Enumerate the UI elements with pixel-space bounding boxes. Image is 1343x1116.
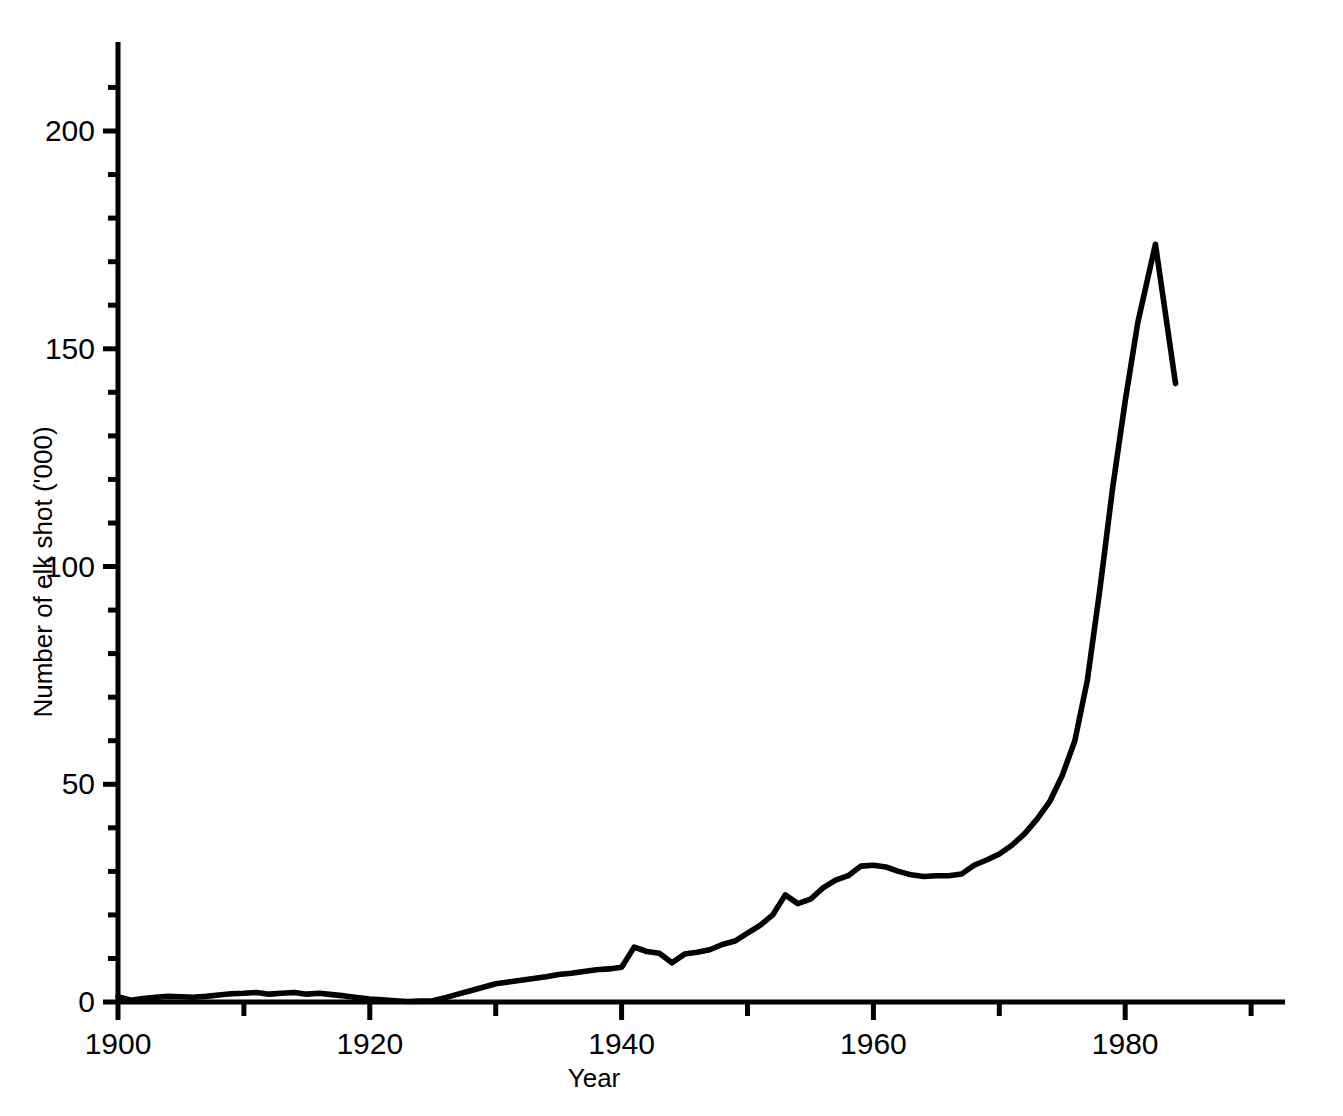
x-tick-label-1920: 1920 [336, 1027, 403, 1060]
y-minor-ticks [108, 87, 118, 958]
y-tick-label-0: 0 [78, 985, 95, 1018]
y-tick-label-200: 200 [45, 114, 95, 147]
x-tick-label-1900: 1900 [85, 1027, 152, 1060]
y-axis-title: Number of elk shot ('000) [28, 426, 58, 717]
data-series-line [118, 244, 1176, 1001]
line-chart-svg: 0 50 100 150 200 1900 1920 1940 1960 198… [0, 0, 1343, 1116]
x-major-ticks [118, 1002, 1125, 1020]
chart-figure: 0 50 100 150 200 1900 1920 1940 1960 198… [0, 0, 1343, 1116]
x-tick-label-1960: 1960 [840, 1027, 907, 1060]
x-tick-label-1980: 1980 [1092, 1027, 1159, 1060]
x-axis-title: Year [568, 1063, 621, 1093]
x-tick-labels: 1900 1920 1940 1960 1980 [85, 1027, 1159, 1060]
y-tick-label-150: 150 [45, 332, 95, 365]
x-tick-label-1940: 1940 [588, 1027, 655, 1060]
y-tick-label-50: 50 [62, 767, 95, 800]
